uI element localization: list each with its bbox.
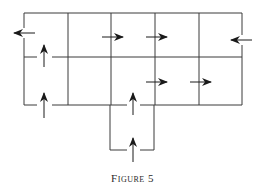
figure-caption: Figure 5 bbox=[0, 172, 265, 184]
arrows bbox=[14, 33, 252, 162]
figure-diagram bbox=[0, 0, 265, 195]
